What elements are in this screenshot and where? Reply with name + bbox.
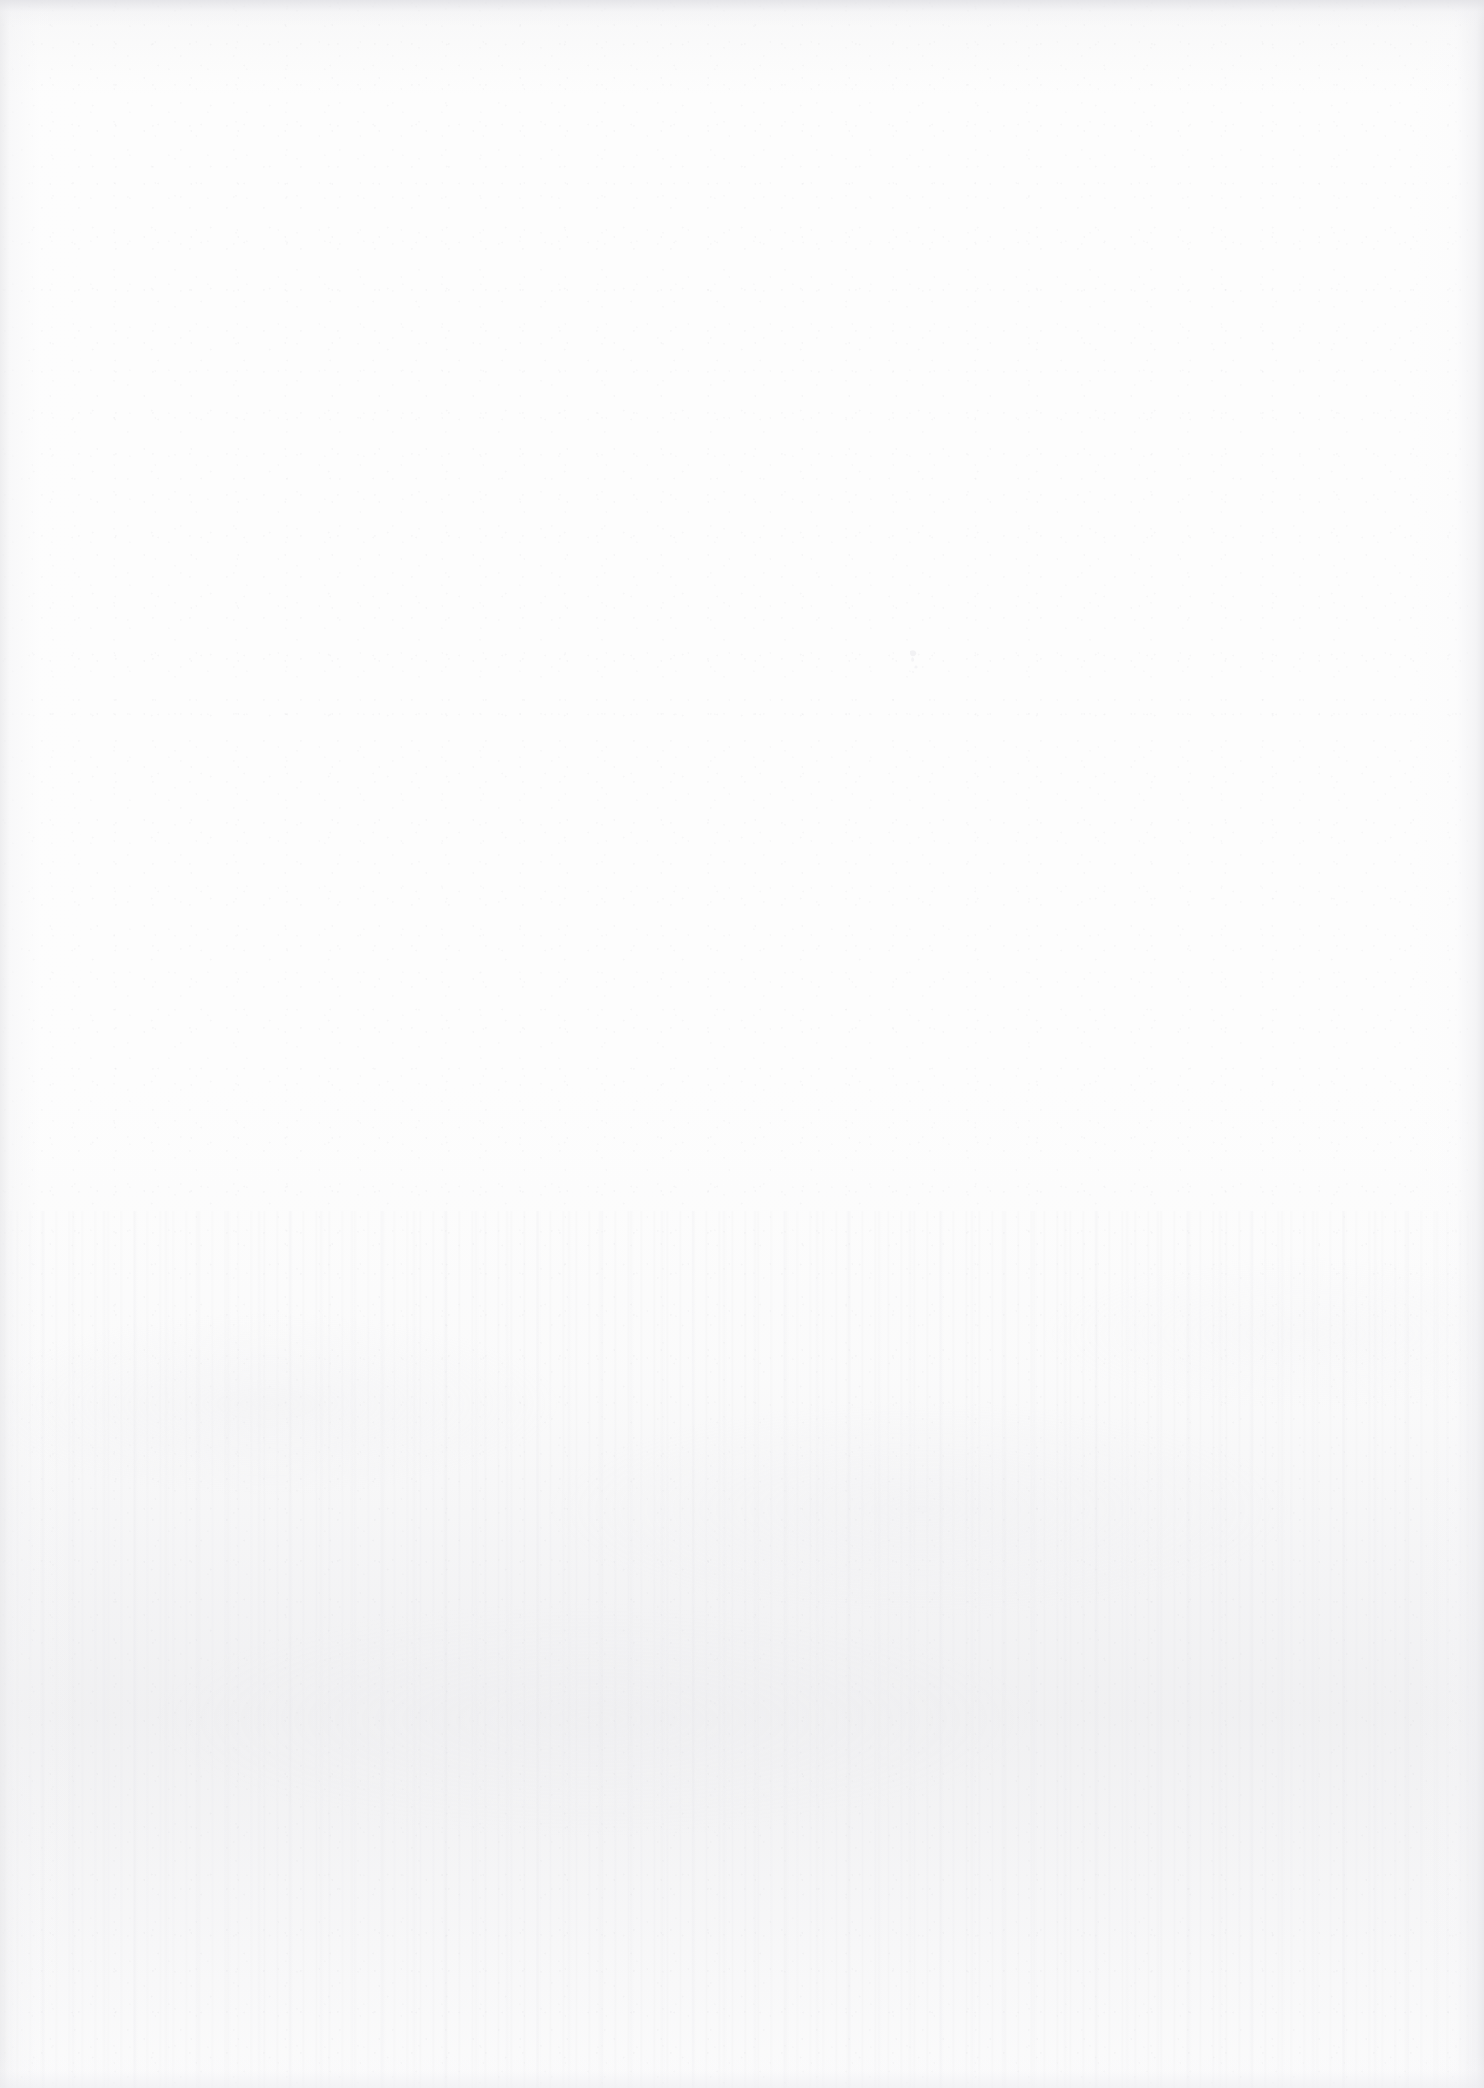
paper-background — [0, 0, 1484, 2088]
scanned-page — [0, 0, 1484, 2088]
